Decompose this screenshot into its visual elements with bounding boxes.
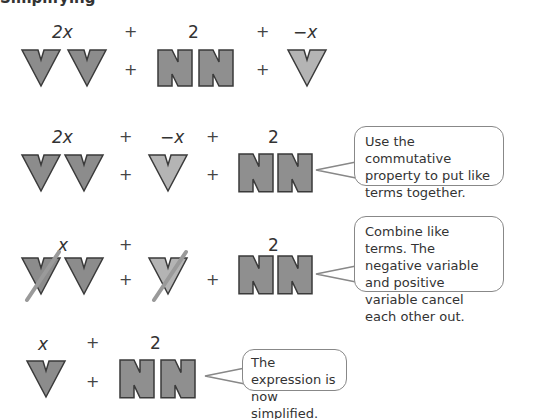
plus-sign: +	[206, 270, 219, 289]
term-label: 2x	[52, 127, 73, 147]
callout-simplified: The expression is now simplified.	[242, 349, 347, 391]
plus-sign: +	[119, 270, 132, 289]
plus-sign: +	[256, 60, 269, 79]
plus-label: +	[206, 127, 219, 146]
plus-label: +	[124, 22, 137, 41]
negative-variable-tile	[288, 50, 326, 86]
constant-tile	[120, 360, 154, 398]
positive-variable-tile	[27, 361, 65, 397]
term-label: 2x	[52, 22, 73, 42]
strike-through-line	[22, 250, 62, 302]
positive-variable-tile	[22, 50, 60, 86]
callout-pointer	[314, 264, 356, 284]
constant-tile	[161, 360, 195, 398]
plus-label: +	[119, 127, 132, 146]
constant-tile	[278, 154, 312, 192]
constant-tile	[278, 256, 312, 294]
callout-pointer	[203, 366, 245, 386]
plus-sign: +	[124, 60, 137, 79]
term-label: 2	[268, 127, 279, 147]
strike-through-line	[149, 250, 189, 302]
term-label: x	[38, 334, 48, 354]
negative-variable-tile	[149, 155, 187, 191]
constant-tile	[199, 50, 233, 86]
positive-variable-tile	[22, 155, 60, 191]
plus-label: +	[86, 333, 99, 352]
plus-label: +	[119, 235, 132, 254]
positive-variable-tile	[65, 155, 103, 191]
constant-tile	[158, 50, 192, 86]
callout-commutative: Use the commutative property to put like…	[354, 126, 504, 186]
term-label: −x	[293, 22, 317, 42]
plus-sign: +	[206, 165, 219, 184]
callout-pointer	[314, 160, 356, 180]
term-label: −x	[160, 127, 184, 147]
positive-variable-tile	[65, 258, 103, 294]
term-label: 2	[268, 235, 279, 255]
page-title: Simplifying	[0, 0, 95, 7]
constant-tile	[239, 154, 273, 192]
term-label: 2	[188, 22, 199, 42]
callout-combine-like-terms: Combine like terms. The negative variabl…	[354, 216, 504, 292]
plus-sign: +	[86, 372, 99, 391]
constant-tile	[239, 256, 273, 294]
plus-label: +	[256, 22, 269, 41]
positive-variable-tile	[68, 50, 106, 86]
term-label: 2	[150, 333, 161, 353]
plus-sign: +	[119, 165, 132, 184]
